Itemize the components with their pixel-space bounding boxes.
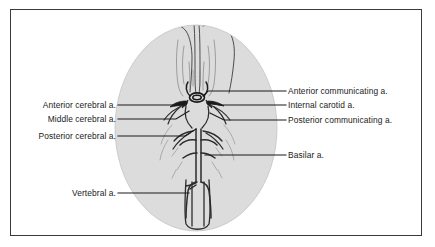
brain-silhouette	[115, 25, 277, 231]
label-middle-cerebral-a: Middle cerebral a.	[48, 114, 116, 124]
label-basilar-a: Basilar a.	[288, 150, 324, 160]
label-vertebral-a: Vertebral a.	[72, 188, 116, 198]
figure-root: Anterior cerebral a. Middle cerebral a. …	[0, 0, 435, 247]
label-posterior-cerebral-a: Posterior cerebral a.	[38, 131, 116, 141]
label-posterior-communicating-a: Posterior communicating a.	[288, 115, 392, 125]
label-anterior-communicating-a: Anterior communicating a.	[288, 86, 388, 96]
label-internal-carotid-a: Internal carotid a.	[288, 100, 355, 110]
label-anterior-cerebral-a: Anterior cerebral a.	[43, 100, 116, 110]
